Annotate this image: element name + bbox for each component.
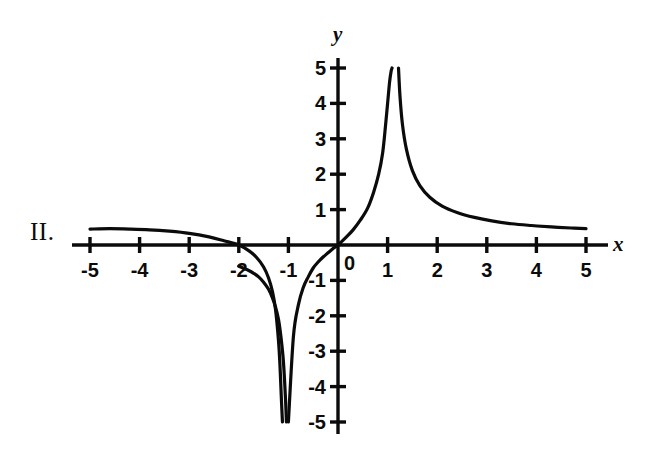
x-tick-label: 3 — [481, 259, 492, 282]
branch-left-tail — [90, 229, 282, 422]
y-tick-label: 5 — [315, 57, 326, 80]
y-tick-label: 3 — [315, 127, 326, 150]
x-tick-label: 1 — [382, 259, 393, 282]
y-tick-label: -1 — [308, 269, 326, 292]
y-tick-label: -4 — [308, 375, 326, 398]
x-tick-label: -3 — [180, 259, 198, 282]
y-tick-label: -3 — [308, 340, 326, 363]
y-axis-label: y — [333, 22, 342, 47]
x-tick-label: -5 — [81, 259, 99, 282]
x-tick-label: 2 — [432, 259, 443, 282]
x-tick-label: 4 — [531, 259, 542, 282]
x-tick-label: -1 — [279, 259, 297, 282]
origin-label: 0 — [344, 252, 355, 275]
x-tick-label: -4 — [131, 259, 149, 282]
figure-label: II. — [30, 218, 54, 246]
x-tick-label: -2 — [230, 259, 248, 282]
coordinate-plot — [0, 0, 654, 463]
y-tick-label: 4 — [315, 92, 326, 115]
x-axis-label: x — [613, 232, 624, 257]
y-tick-label: -2 — [308, 304, 326, 327]
x-tick-label: 5 — [580, 259, 591, 282]
graph-figure: II. y x 0 -5-4-3-2-112345 54321-1-2-3-4-… — [0, 0, 654, 463]
y-tick-label: 2 — [315, 163, 326, 186]
axes-group — [72, 58, 608, 434]
y-tick-label: -5 — [308, 411, 326, 434]
branch-right-tail — [399, 68, 586, 229]
y-tick-label: 1 — [315, 198, 326, 221]
